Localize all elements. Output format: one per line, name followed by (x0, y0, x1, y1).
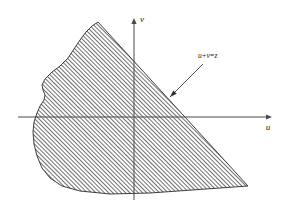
shaded-region-group (33, 22, 248, 194)
u-axis-label: u (266, 122, 271, 132)
v-axis-arrowhead-icon (131, 18, 136, 24)
boundary-line-label: u+v=z (198, 51, 217, 60)
leader-group (170, 64, 203, 97)
leader-arrow-line (170, 64, 203, 97)
shaded-region (33, 22, 248, 194)
v-axis-label: v (140, 14, 144, 24)
figure-container: u v u+v=z (0, 0, 284, 212)
u-axis-arrowhead-icon (266, 114, 272, 119)
uv-plane-diagram: u v u+v=z (0, 0, 284, 212)
